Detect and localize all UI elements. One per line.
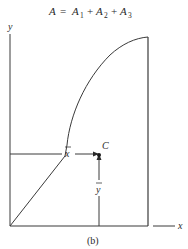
y-axis-label: y bbox=[7, 21, 13, 32]
equation-term-2: A bbox=[95, 5, 103, 17]
equation-lhs: A bbox=[48, 5, 56, 17]
figure-caption: (b) bbox=[87, 235, 99, 247]
equation-term-1-sub: 1 bbox=[80, 11, 84, 20]
equation-plus-1: + bbox=[87, 5, 93, 17]
centroid-point bbox=[97, 153, 101, 157]
ybar-label: y bbox=[95, 184, 101, 195]
centroid-diagram: A = A 1 + A 2 + A 3 y x x y C bbox=[0, 0, 188, 249]
xbar-label-group: x bbox=[64, 147, 71, 159]
triangle-edge bbox=[10, 156, 65, 226]
equation-term-3-sub: 3 bbox=[128, 11, 132, 20]
equation-plus-2: + bbox=[111, 5, 117, 17]
xbar-label: x bbox=[64, 148, 70, 159]
curved-edge bbox=[65, 37, 148, 156]
equation-term-2-sub: 2 bbox=[104, 11, 108, 20]
centroid-label: C bbox=[102, 140, 109, 151]
area-equation: A = A 1 + A 2 + A 3 bbox=[48, 5, 132, 20]
x-axis-label: x bbox=[177, 220, 183, 231]
ybar-label-group: y bbox=[95, 183, 102, 195]
composite-area-outline bbox=[10, 37, 148, 226]
equation-term-1: A bbox=[71, 5, 79, 17]
equation-equals: = bbox=[60, 5, 66, 17]
equation-term-3: A bbox=[119, 5, 127, 17]
